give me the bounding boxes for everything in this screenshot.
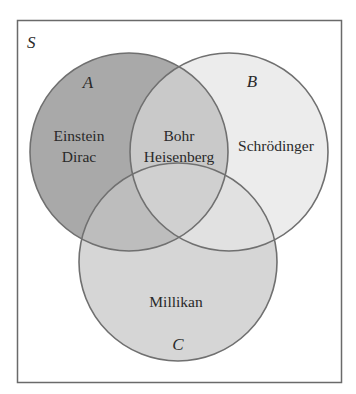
name-millikan: Millikan <box>149 293 203 310</box>
name-schrodinger: Schrödinger <box>238 137 315 154</box>
name-einstein: Einstein <box>54 127 105 144</box>
name-bohr: Bohr <box>164 127 196 144</box>
set-c-label: C <box>172 335 184 354</box>
venn-diagram: S A B C Einstein Dirac Bohr Heisenberg S… <box>0 0 356 394</box>
set-a-label: A <box>82 73 94 92</box>
universe-label: S <box>27 33 36 52</box>
set-b-label: B <box>247 72 258 91</box>
name-dirac: Dirac <box>62 148 97 165</box>
name-heisenberg: Heisenberg <box>144 148 215 165</box>
